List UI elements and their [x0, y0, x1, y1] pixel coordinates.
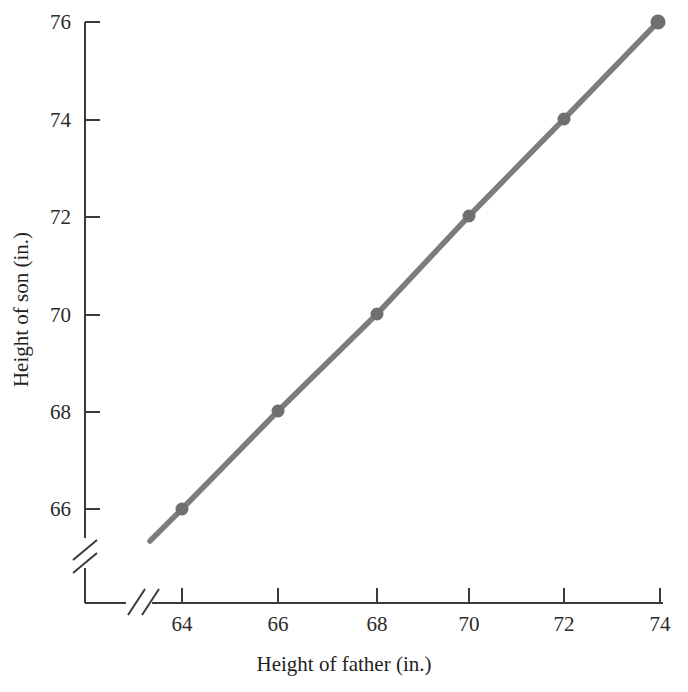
x-tick-label-66: 66	[268, 614, 289, 635]
data-point-68-70	[371, 308, 384, 321]
chart-container: 76 74 72 70 68 66 64 66 68 70 72 74 Heig…	[0, 0, 688, 692]
x-axis-ticks	[182, 588, 660, 603]
x-tick-label-74: 74	[650, 614, 671, 635]
data-point-64-66	[176, 503, 189, 516]
chart-plot-area	[0, 0, 688, 692]
y-axis-break-icon	[73, 538, 97, 573]
data-point-72-74	[558, 113, 571, 126]
series-line-predicted-height	[150, 22, 658, 541]
x-tick-label-68: 68	[367, 614, 388, 635]
y-tick-label-66: 66	[18, 499, 71, 520]
y-tick-label-74: 74	[18, 110, 71, 131]
data-point-74-76	[651, 15, 666, 30]
y-tick-label-76: 76	[18, 12, 71, 33]
data-point-66-68	[272, 405, 285, 418]
y-axis-title: Height of son (in.)	[9, 160, 34, 460]
x-tick-label-64: 64	[172, 614, 193, 635]
y-axis-ticks	[85, 22, 100, 509]
x-tick-label-70: 70	[459, 614, 480, 635]
data-point-70-72	[463, 210, 476, 223]
x-axis-title: Height of father (in.)	[0, 652, 688, 677]
x-tick-label-72: 72	[554, 614, 575, 635]
